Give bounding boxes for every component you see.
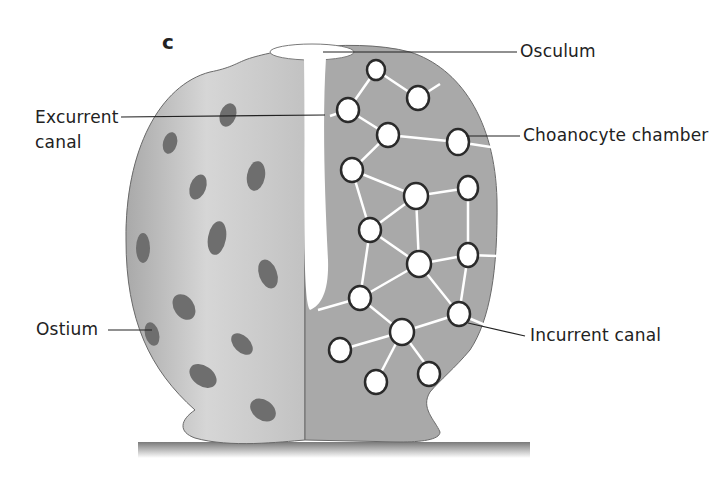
label-excurrent-line2: canal bbox=[35, 132, 119, 152]
label-choanocyte-chamber: Choanocyte chamber bbox=[523, 125, 709, 145]
sponge-diagram: c Osculum Excurrent canal Choanocyte cha… bbox=[0, 0, 721, 484]
label-incurrent-canal: Incurrent canal bbox=[530, 325, 661, 345]
sponge-illustration bbox=[0, 0, 721, 484]
label-ostium: Ostium bbox=[36, 319, 98, 339]
label-excurrent-canal: Excurrent canal bbox=[35, 107, 119, 152]
substrate bbox=[138, 442, 530, 458]
label-excurrent-line1: Excurrent bbox=[35, 107, 119, 127]
label-osculum: Osculum bbox=[520, 41, 596, 61]
panel-letter: c bbox=[162, 30, 174, 54]
